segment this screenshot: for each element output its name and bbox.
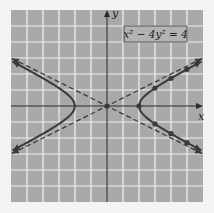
data-point xyxy=(184,67,189,72)
equation-label-box: x² − 4y² = 4 xyxy=(123,26,188,42)
data-point xyxy=(168,76,173,81)
data-point xyxy=(152,121,157,126)
x-axis-label: x xyxy=(198,110,205,123)
data-point xyxy=(168,131,173,136)
data-point xyxy=(152,85,157,90)
data-point xyxy=(136,103,141,108)
data-point xyxy=(104,103,109,108)
equation-label: x² − 4y² = 4 xyxy=(123,28,188,40)
y-axis-label: y xyxy=(111,7,119,20)
hyperbola-chart: x² − 4y² = 4 x y xyxy=(0,0,214,213)
data-point xyxy=(184,140,189,145)
